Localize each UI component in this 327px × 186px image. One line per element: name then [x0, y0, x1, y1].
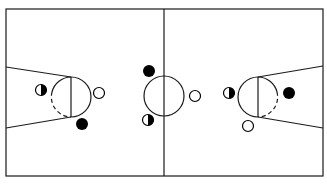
left-free-throw-circle-dashed: [51, 92, 71, 117]
center-half-shaded-player-icon: [143, 115, 154, 126]
left-free-throw-circle-upper: [52, 77, 71, 92]
center-open-player-icon: [190, 91, 201, 102]
center-solid-player-icon: [143, 65, 155, 77]
right-solid-player-icon: [283, 87, 295, 99]
left-lane-top-line: [6, 67, 71, 77]
right-lane-bottom-line: [258, 117, 323, 128]
right-half-shaded-player-icon: [224, 88, 235, 99]
right-free-throw-circle-upper: [258, 77, 277, 92]
basketball-court-diagram: [0, 0, 327, 186]
right-lane-top-line: [258, 66, 323, 77]
right-free-throw-circle-dashed: [258, 92, 278, 117]
right-free-throw-circle-solid: [238, 77, 258, 117]
left-open-player-icon: [94, 88, 105, 99]
left-solid-player-icon: [76, 118, 88, 130]
right-open-player-icon: [243, 121, 254, 132]
left-free-throw-circle-solid: [71, 77, 91, 117]
left-lane-bottom-line: [6, 117, 71, 128]
left-key: [6, 67, 91, 128]
players: [36, 65, 296, 132]
right-key: [238, 66, 323, 128]
left-half-shaded-player-icon: [36, 85, 47, 96]
